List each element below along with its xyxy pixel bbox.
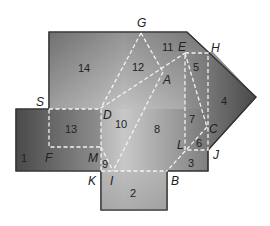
point-label-G: G <box>137 16 146 30</box>
region-label-10: 10 <box>115 118 127 130</box>
region-label-5: 5 <box>193 61 199 73</box>
region-label-3: 3 <box>188 157 194 169</box>
point-label-S: S <box>36 95 44 109</box>
point-label-C: C <box>209 122 218 136</box>
region-label-8: 8 <box>154 123 160 135</box>
region-label-7: 7 <box>189 113 195 125</box>
point-label-E: E <box>178 40 187 54</box>
region-label-6: 6 <box>196 137 202 149</box>
point-label-L: L <box>177 138 184 152</box>
point-label-K: K <box>88 174 97 188</box>
point-label-A: A <box>162 73 171 87</box>
point-label-H: H <box>211 41 220 55</box>
region-label-14: 14 <box>78 62 90 74</box>
point-label-F: F <box>45 151 53 165</box>
region-label-11: 11 <box>162 41 173 53</box>
folded-net-diagram: 1 2 3 4 5 6 7 8 9 10 11 12 13 14 G E H A… <box>0 0 270 226</box>
region-label-4: 4 <box>221 95 227 107</box>
point-label-B: B <box>171 174 179 188</box>
region-label-2: 2 <box>130 187 136 199</box>
point-label-M: M <box>88 151 98 165</box>
region-label-12: 12 <box>132 61 144 73</box>
point-label-D: D <box>103 108 112 122</box>
point-label-J: J <box>212 148 220 162</box>
region-label-1: 1 <box>21 152 27 164</box>
region-label-9: 9 <box>102 158 108 170</box>
region-label-13: 13 <box>65 123 77 135</box>
